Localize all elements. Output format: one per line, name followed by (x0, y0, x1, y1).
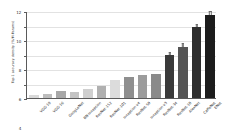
bar (151, 74, 161, 98)
bar (124, 77, 134, 98)
x-tick-label: VGG-19 (39, 101, 52, 114)
plot-area: 024681012 (26, 12, 216, 99)
y-tick-label: 4 (19, 127, 22, 131)
bar (165, 55, 175, 98)
bar (205, 15, 215, 98)
y-tick-mark: 0 (24, 99, 27, 100)
bar (192, 27, 202, 98)
bar (83, 89, 93, 98)
y-tick-label: 6 (19, 98, 22, 102)
error-bar (195, 24, 197, 27)
error-bar (209, 11, 211, 14)
bar (43, 94, 53, 98)
bar-series (27, 12, 216, 98)
bar (178, 47, 188, 98)
bar (29, 95, 39, 98)
y-tick-label: 10 (16, 40, 21, 44)
bar (97, 86, 107, 98)
error-bar (182, 43, 184, 46)
x-tick-label: GoogLeNet (68, 101, 85, 118)
y-tick-label: 8 (19, 69, 22, 73)
bar (110, 80, 120, 98)
bar (70, 92, 80, 98)
y-axis-label: Top-1 accuracy density (%/M-Params) (11, 6, 15, 98)
bar (56, 91, 66, 98)
x-tick-label: VGG-16 (52, 101, 65, 114)
y-tick-label: 12 (16, 11, 21, 15)
accuracy-density-bar-chart: Top-1 accuracy density (%/M-Params) 0246… (0, 0, 225, 131)
error-bar (168, 52, 170, 55)
bar (138, 75, 148, 98)
